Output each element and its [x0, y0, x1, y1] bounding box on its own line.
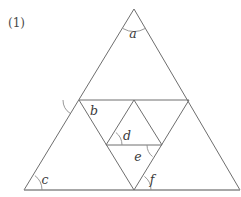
angle-label-e: e	[134, 149, 141, 164]
angle-arc-d	[116, 133, 122, 146]
angle-label-b: b	[90, 103, 98, 118]
angle-label-group: a b d e c f	[41, 26, 156, 187]
angle-label-c: c	[41, 172, 48, 187]
inner-right-edge	[134, 100, 162, 145]
problem-number-label: (1)	[8, 16, 25, 30]
angle-arc-b	[63, 100, 70, 113]
angle-label-f: f	[149, 172, 157, 187]
angle-arc-e	[147, 145, 153, 157]
angle-label-a: a	[129, 26, 136, 41]
geometry-figure: a b d e c f (1)	[0, 0, 241, 197]
triangle-diagram: a b d e c f (1)	[0, 0, 241, 197]
angle-label-d: d	[123, 128, 131, 143]
inner-triangle	[106, 100, 162, 145]
